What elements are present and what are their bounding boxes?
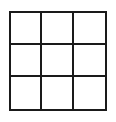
- cell-r3-c1[interactable]: [11, 77, 42, 109]
- cell-r2-c2[interactable]: [42, 45, 73, 77]
- cell-r2-c1[interactable]: [11, 45, 42, 77]
- cell-r1-c1[interactable]: [11, 13, 42, 45]
- tic-tac-toe-board: [9, 11, 107, 111]
- cell-r1-c2[interactable]: [42, 13, 73, 45]
- cell-r3-c3[interactable]: [74, 77, 105, 109]
- cell-r2-c3[interactable]: [74, 45, 105, 77]
- cell-r1-c3[interactable]: [74, 13, 105, 45]
- cell-r3-c2[interactable]: [42, 77, 73, 109]
